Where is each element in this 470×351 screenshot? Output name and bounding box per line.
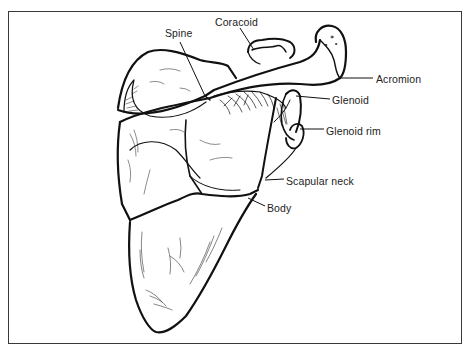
label-coracoid: Coracoid bbox=[215, 16, 258, 28]
medial-border bbox=[118, 122, 130, 220]
scapula-illustration bbox=[0, 0, 470, 351]
label-glenoid: Glenoid bbox=[332, 94, 369, 106]
body-divide bbox=[130, 190, 258, 220]
inferior-body bbox=[129, 194, 256, 332]
scapula-superior-outline bbox=[118, 50, 236, 108]
leader-coracoid bbox=[240, 28, 254, 50]
label-body: Body bbox=[267, 202, 291, 214]
leader-spine bbox=[180, 42, 205, 96]
label-spine: Spine bbox=[165, 27, 192, 39]
leader-scapular-neck bbox=[265, 179, 284, 180]
label-acromion: Acromion bbox=[376, 73, 421, 85]
lateral-border bbox=[258, 98, 276, 188]
label-scapular-neck: Scapular neck bbox=[286, 175, 354, 187]
label-glenoid-rim: Glenoid rim bbox=[326, 125, 381, 137]
